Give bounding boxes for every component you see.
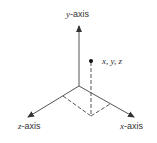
point-label: x, y, z (102, 57, 122, 66)
z-axis-label: z-axis (18, 122, 41, 131)
x-axis-label: x-axis (120, 122, 143, 131)
projection-z-parallel (63, 96, 91, 116)
x-axis-line (79, 86, 134, 117)
y-axis-label: y-axis (66, 10, 89, 19)
projection-x-parallel (91, 104, 110, 116)
point-marker (89, 59, 93, 63)
